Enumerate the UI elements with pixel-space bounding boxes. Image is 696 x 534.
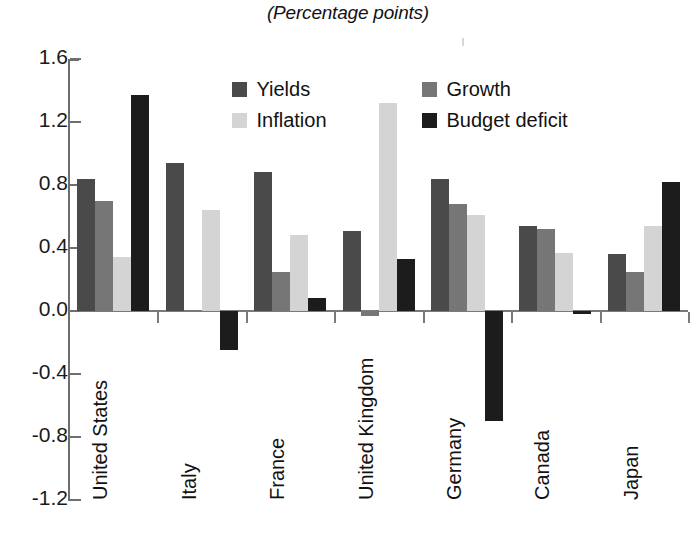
y-axis-tick (70, 121, 81, 123)
legend-item-inflation: Inflation (232, 109, 327, 135)
bar-budget-deficit-france (308, 298, 326, 311)
x-axis-tick (600, 312, 602, 323)
legend-label-growth: Growth (446, 78, 510, 100)
bar-inflation-canada (555, 253, 573, 311)
legend-item-yields: Yields (232, 78, 310, 104)
bar-inflation-germany (467, 215, 485, 311)
bar-growth-france (272, 272, 290, 311)
y-axis-line (68, 59, 70, 501)
x-axis-label-france: France (266, 438, 289, 500)
bar-inflation-italy (202, 210, 220, 311)
legend-swatch-yields-icon (232, 82, 247, 97)
y-axis-label: -0.8 (6, 423, 68, 447)
bar-budget-deficit-united-kingdom (397, 259, 415, 311)
bar-yields-france (254, 172, 272, 311)
x-axis-tick (688, 312, 690, 323)
bar-growth-japan (626, 272, 644, 311)
bar-growth-germany (449, 204, 467, 311)
bar-chart: (Percentage points) 1.61.20.80.40.0-0.4-… (0, 0, 696, 534)
y-axis-label: -0.4 (6, 360, 68, 384)
bar-yields-canada (519, 226, 537, 311)
y-axis-tick (70, 373, 81, 375)
bar-growth-united-kingdom (361, 311, 379, 316)
bar-inflation-japan (644, 226, 662, 311)
x-axis-tick (157, 312, 159, 323)
y-axis-label: -1.2 (6, 486, 68, 510)
legend-item-budget-deficit: Budget deficit (422, 109, 568, 135)
bar-inflation-france (290, 235, 308, 311)
bar-yields-germany (431, 179, 449, 311)
legend-swatch-inflation-icon (232, 113, 247, 128)
legend-item-growth: Growth (422, 78, 511, 104)
x-axis-label-germany: Germany (443, 418, 466, 500)
scan-artifact (462, 38, 464, 46)
bar-budget-deficit-italy (220, 311, 238, 350)
bar-growth-canada (537, 229, 555, 311)
bar-yields-japan (608, 254, 626, 311)
y-axis-label: 1.6 (6, 45, 68, 69)
bar-budget-deficit-united-states (131, 95, 149, 311)
chart-title: (Percentage points) (0, 2, 696, 24)
bar-yields-united-kingdom (343, 231, 361, 311)
legend-label-inflation: Inflation (256, 109, 326, 131)
x-axis-label-japan: Japan (620, 446, 643, 501)
y-axis-label: 0.8 (6, 171, 68, 195)
bar-budget-deficit-canada (573, 311, 591, 314)
legend-label-yields: Yields (256, 78, 310, 100)
bar-budget-deficit-japan (662, 182, 680, 311)
x-axis-label-united-kingdom: United Kingdom (355, 358, 378, 500)
chart-legend: Yields Inflation Growth Budget deficit (232, 78, 532, 140)
x-axis-label-canada: Canada (531, 430, 554, 500)
bar-budget-deficit-germany (485, 311, 503, 421)
x-axis-label-united-states: United States (89, 380, 112, 500)
y-axis-label: 0.4 (6, 234, 68, 258)
bar-yields-united-states (77, 179, 95, 311)
x-axis-tick (423, 312, 425, 323)
legend-swatch-budget-deficit-icon (422, 113, 437, 128)
x-axis-tick (334, 312, 336, 323)
y-axis-tick (70, 499, 81, 501)
bar-inflation-united-states (113, 257, 131, 311)
y-axis-tick (70, 58, 81, 60)
x-axis-label-italy: Italy (178, 463, 201, 500)
y-axis-label: 1.2 (6, 108, 68, 132)
bar-growth-united-states (95, 201, 113, 311)
bar-yields-italy (166, 163, 184, 311)
x-axis-tick (246, 312, 248, 323)
x-axis-tick (511, 312, 513, 323)
y-axis-tick (70, 436, 81, 438)
legend-label-budget-deficit: Budget deficit (446, 109, 567, 131)
legend-swatch-growth-icon (422, 82, 437, 97)
y-axis-label: 0.0 (6, 297, 68, 321)
